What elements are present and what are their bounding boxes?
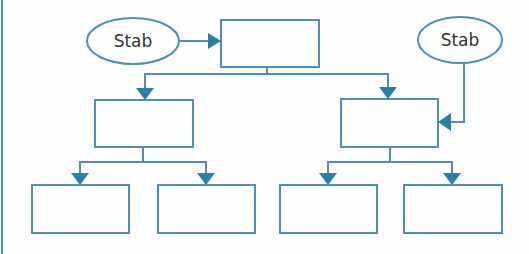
arrowhead-down-icon [136,88,154,100]
connector-top-to-mid [136,67,397,100]
box-bottom-4 [404,185,502,233]
connector-stab-right-to-mid-right [438,63,465,131]
arrowhead-right-icon [208,33,221,49]
ellipse-label: Stab [441,30,480,50]
box-mid-right [341,99,438,147]
ellipse-stab-right: Stab [418,17,502,63]
diagram-canvas: Stab Stab [0,0,529,254]
arrowhead-left-icon [438,113,451,131]
box-top [221,20,319,67]
box-mid-left [95,100,193,147]
connector-mid-right-to-bottom [319,147,461,185]
ellipse-label: Stab [114,31,153,51]
arrowhead-down-icon [379,87,397,99]
arrowhead-down-icon [197,173,215,185]
connector-stab-left-to-top [179,33,221,49]
arrowhead-down-icon [319,173,337,185]
arrowhead-down-icon [443,173,461,185]
connector-mid-left-to-bottom [71,147,215,185]
ellipse-stab-left: Stab [87,18,179,64]
hierarchy-diagram: Stab Stab [0,0,529,254]
box-bottom-3 [280,185,377,233]
arrowhead-down-icon [71,173,89,185]
box-bottom-1 [32,185,129,233]
box-bottom-2 [158,185,255,233]
